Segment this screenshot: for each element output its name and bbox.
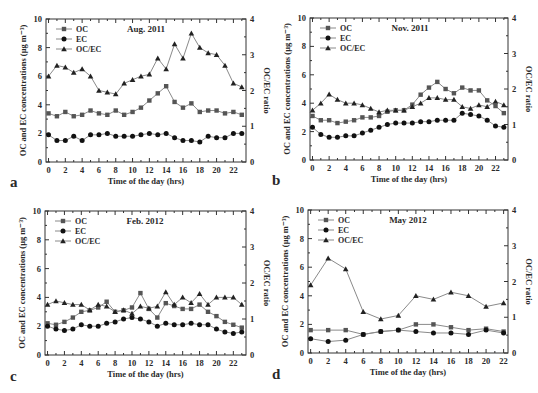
y-right-axis-title: OC/EC ratio [524, 66, 534, 113]
data-point [222, 135, 227, 140]
data-point [180, 322, 185, 327]
data-point [368, 128, 373, 133]
x-tick-label: 20 [212, 358, 221, 368]
data-point [205, 50, 211, 55]
series-line [311, 330, 504, 341]
panel-title: Feb. 2012 [127, 216, 164, 226]
data-point [138, 317, 143, 322]
x-tick-label: 12 [408, 163, 417, 173]
x-tick-label: 20 [475, 163, 484, 173]
data-point [443, 118, 448, 123]
data-point [402, 121, 407, 126]
series-oc-ec [308, 255, 507, 321]
x-tick-label: 2 [63, 165, 67, 175]
y-tick-label: 6 [302, 70, 306, 80]
data-point [485, 118, 490, 123]
y-tick-label: 2 [302, 127, 306, 137]
data-point [501, 125, 506, 130]
y-right-tick-label: 2 [512, 277, 516, 287]
data-point [214, 327, 219, 332]
y-tick-label: 10 [33, 206, 42, 216]
data-point [164, 84, 168, 88]
y-right-tick-label: 4 [512, 13, 517, 23]
x-tick-label: 4 [80, 165, 85, 175]
data-point [79, 310, 83, 314]
data-point [163, 289, 169, 294]
data-point [54, 138, 59, 143]
data-point [344, 119, 348, 123]
data-point [138, 132, 143, 137]
data-point [222, 329, 227, 334]
data-point [231, 131, 236, 136]
x-tick-label: 4 [344, 356, 349, 366]
x-tick-label: 4 [79, 358, 84, 368]
data-point [360, 115, 364, 119]
x-tick-label: 6 [360, 163, 364, 173]
x-tick-label: 18 [196, 165, 205, 175]
data-point [156, 91, 160, 95]
y-right-tick-label: 3 [250, 50, 254, 60]
panel-c: 0246810012340246810121416182022Time of t… [10, 206, 272, 384]
y-right-tick-label: 3 [512, 49, 516, 59]
data-point [431, 330, 436, 335]
y-right-axis-title: OC/EC ratio [262, 67, 272, 114]
legend-item: OC [56, 25, 88, 34]
legend-marker [61, 219, 65, 223]
data-point [88, 132, 93, 137]
data-point [129, 315, 134, 320]
y-tick-label: 8 [300, 234, 304, 244]
data-point [45, 324, 50, 329]
data-point [180, 138, 185, 143]
data-point [369, 115, 373, 119]
y-tick-label: 2 [300, 319, 304, 329]
series-line [48, 293, 242, 328]
data-point [130, 134, 135, 139]
data-point [155, 324, 160, 329]
data-point [326, 339, 331, 344]
data-point [431, 322, 435, 326]
data-point [443, 87, 447, 91]
data-point [62, 328, 67, 333]
data-point [240, 113, 244, 117]
data-point [114, 108, 118, 112]
data-point [197, 291, 203, 296]
data-point [361, 332, 366, 337]
legend-label: OC [76, 25, 88, 34]
data-point [335, 97, 341, 102]
x-tick-label: 8 [114, 165, 118, 175]
data-point [104, 321, 109, 326]
data-point [418, 100, 424, 105]
y-right-tick-label: 4 [250, 14, 255, 24]
data-point [147, 72, 153, 77]
data-point [343, 266, 349, 271]
series-line [311, 258, 504, 319]
data-point [214, 108, 218, 112]
data-point [130, 110, 134, 114]
data-point [231, 110, 235, 114]
figure: 0246810012340246810121416182022Time of t… [0, 0, 538, 393]
data-point [231, 81, 237, 86]
x-tick-label: 18 [195, 358, 204, 368]
data-point [130, 305, 134, 309]
y-tick-label: 10 [296, 205, 305, 215]
legend-marker [324, 228, 329, 233]
panel-letter: b [272, 172, 280, 188]
legend-item: OC/EC [318, 236, 364, 245]
x-tick-label: 22 [229, 165, 238, 175]
data-point [189, 101, 193, 105]
x-tick-label: 2 [62, 358, 66, 368]
legend-item: OC [318, 216, 350, 225]
y-tick-label: 10 [298, 13, 307, 23]
legend-marker [326, 26, 330, 30]
panel-letter: a [10, 174, 18, 190]
data-point [466, 332, 471, 337]
y-tick-label: 0 [37, 350, 41, 360]
data-point [163, 321, 168, 326]
data-point [413, 329, 418, 334]
y-right-tick-label: 1 [512, 312, 516, 322]
data-point [189, 31, 195, 36]
data-point [418, 119, 423, 124]
series-line [312, 94, 503, 112]
legend-label: OC/EC [75, 237, 101, 246]
data-point [344, 328, 348, 332]
